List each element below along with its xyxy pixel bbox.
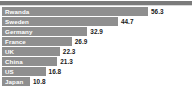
bar-row: US16.8 xyxy=(0,67,192,76)
bar-value-label: 21.3 xyxy=(60,57,73,66)
bar-chart: Rwanda56.3Sweden44.7Germany32.9France26.… xyxy=(0,0,192,88)
bar-category-label: Rwanda xyxy=(5,7,29,16)
bar-value-label: 32.9 xyxy=(90,27,103,36)
bar-row: UK22.3 xyxy=(0,47,192,56)
bar-row: Sweden44.7 xyxy=(0,17,192,26)
top-divider-shadow xyxy=(0,5,192,6)
bar-category-label: France xyxy=(5,37,26,46)
bar-value-label: 56.3 xyxy=(151,7,164,16)
bar-category-label: US xyxy=(5,67,14,76)
bar-row: Rwanda56.3 xyxy=(0,7,192,16)
bar-row: China21.3 xyxy=(0,57,192,66)
bar-value-label: 10.8 xyxy=(33,77,46,86)
bar-category-label: UK xyxy=(5,47,14,56)
bar-value-label: 16.8 xyxy=(49,67,62,76)
bar-category-label: Japan xyxy=(5,77,23,86)
bar-category-label: China xyxy=(5,57,23,66)
bar-row: Japan10.8 xyxy=(0,77,192,86)
bar-value-label: 26.9 xyxy=(75,37,88,46)
bar-value-label: 22.3 xyxy=(63,47,76,56)
bar-rows-container: Rwanda56.3Sweden44.7Germany32.9France26.… xyxy=(0,7,192,87)
bar-category-label: Germany xyxy=(5,27,33,36)
bar-row: France26.9 xyxy=(0,37,192,46)
bar-category-label: Sweden xyxy=(5,17,29,26)
bar-row: Germany32.9 xyxy=(0,27,192,36)
bar-value-label: 44.7 xyxy=(121,17,134,26)
